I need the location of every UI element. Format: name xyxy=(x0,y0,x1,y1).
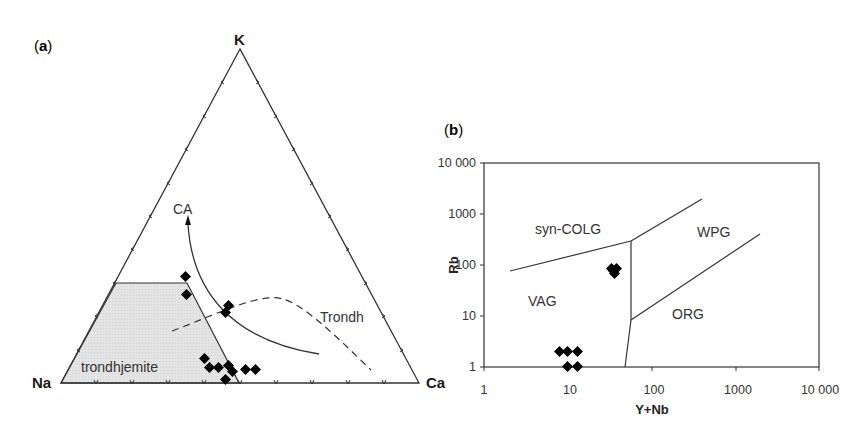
panel-b-loglog: (b) 10 000 1000 100 10 1 1 10 100 1000 xyxy=(438,121,839,417)
y-tick-10: 10 xyxy=(462,309,476,323)
y-tick-1: 1 xyxy=(469,360,476,374)
x-tick-10: 10 xyxy=(563,383,577,397)
syncolg-wpg-boundary xyxy=(631,199,702,241)
region-vag: VAG xyxy=(528,293,557,309)
panel-a-ternary: (a) K Na Ca CA T xyxy=(32,31,446,391)
vertex-ca-label: Ca xyxy=(426,374,446,391)
y-tick-1000: 1000 xyxy=(448,207,476,221)
trondh-trend-label: Trondh xyxy=(320,309,364,325)
panel-a-label: (a) xyxy=(34,37,52,54)
panel-b-label: (b) xyxy=(444,121,463,138)
x-axis-ticks xyxy=(484,367,819,371)
x-tick-10000: 10 000 xyxy=(801,383,839,397)
vertex-na-label: Na xyxy=(32,374,52,391)
region-org: ORG xyxy=(672,306,704,322)
x-axis-title: Y+Nb xyxy=(635,402,669,417)
x-tick-1000: 1000 xyxy=(724,383,752,397)
y-tick-10000: 10 000 xyxy=(438,156,476,170)
ca-trend-label: CA xyxy=(173,201,193,217)
figure-canvas: (a) K Na Ca CA T xyxy=(0,0,862,439)
x-tick-1: 1 xyxy=(481,383,488,397)
region-syn-colg: syn-COLG xyxy=(535,221,601,237)
region-wpg: WPG xyxy=(697,224,730,240)
vertex-k-label: K xyxy=(234,31,245,48)
trondhjemite-label: trondhjemite xyxy=(81,359,158,375)
y-axis-title: Rb xyxy=(446,256,461,273)
loglog-data-points xyxy=(554,263,622,372)
vag-wpg-org-boundary xyxy=(625,241,631,367)
x-tick-100: 100 xyxy=(644,383,665,397)
